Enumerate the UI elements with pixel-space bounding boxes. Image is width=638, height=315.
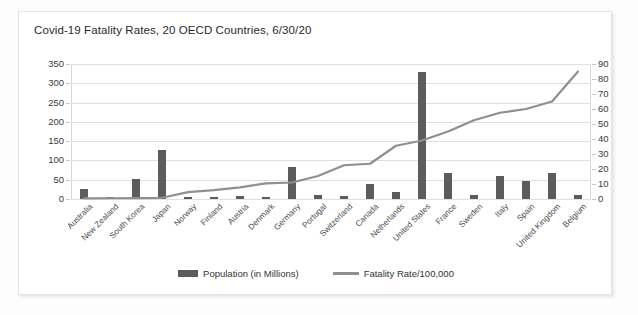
- right-axis-tick-label: 80: [598, 74, 609, 84]
- right-axis-tick-label: 0: [598, 194, 603, 204]
- right-axis-tick-mark: [592, 169, 596, 170]
- left-axis-tick-label: 350: [48, 59, 64, 69]
- left-axis-tick-mark: [66, 160, 70, 161]
- plot-area: 050100150200250300350 010203040506070809…: [71, 64, 591, 199]
- chart-card: Covid-19 Fatality Rates, 20 OECD Countri…: [18, 11, 612, 295]
- right-axis-tick-mark: [592, 109, 596, 110]
- left-axis-tick-label: 250: [48, 98, 64, 108]
- chart-legend: Population (in Millions) Fatality Rate/1…: [19, 268, 613, 279]
- left-axis-tick-mark: [66, 103, 70, 104]
- left-axis-tick-label: 300: [48, 78, 64, 88]
- left-axis-tick-mark: [66, 199, 70, 200]
- left-axis-tick-mark: [66, 141, 70, 142]
- left-axis-tick-label: 50: [53, 175, 64, 185]
- legend-label-population: Population (in Millions): [203, 268, 299, 279]
- right-axis-tick-mark: [592, 79, 596, 80]
- right-axis-tick-label: 90: [598, 59, 609, 69]
- right-axis-tick-mark: [592, 139, 596, 140]
- chart-title: Covid-19 Fatality Rates, 20 OECD Countri…: [34, 24, 311, 36]
- legend-item-population: Population (in Millions): [178, 268, 299, 279]
- right-axis-tick-mark: [592, 64, 596, 65]
- line-series-fatality-rate: [71, 64, 591, 199]
- legend-label-fatality-rate: Fatality Rate/100,000: [364, 268, 454, 279]
- right-axis-tick-mark: [592, 184, 596, 185]
- right-axis-tick-mark: [592, 124, 596, 125]
- right-axis-tick-label: 20: [598, 164, 609, 174]
- left-axis-tick-label: 100: [48, 155, 64, 165]
- right-axis-tick-label: 60: [598, 104, 609, 114]
- left-axis-tick-label: 0: [59, 194, 64, 204]
- screenshot-root: Covid-19 Fatality Rates, 20 OECD Countri…: [0, 0, 638, 315]
- right-axis-tick-mark: [592, 154, 596, 155]
- right-axis-tick-mark: [592, 199, 596, 200]
- left-axis-tick-label: 200: [48, 117, 64, 127]
- left-axis-tick-mark: [66, 180, 70, 181]
- right-axis-tick-label: 70: [598, 89, 609, 99]
- left-axis-tick-label: 150: [48, 136, 64, 146]
- left-axis-tick-mark: [66, 122, 70, 123]
- left-axis-tick-mark: [66, 83, 70, 84]
- right-axis-tick-label: 10: [598, 179, 609, 189]
- x-axis-category-labels: AustraliaNew ZealandSouth KoreaJapanNorw…: [71, 199, 591, 261]
- left-axis-tick-mark: [66, 64, 70, 65]
- line-swatch-icon: [333, 272, 359, 275]
- legend-item-fatality-rate: Fatality Rate/100,000: [333, 268, 454, 279]
- right-axis-tick-label: 50: [598, 119, 609, 129]
- right-axis-tick-mark: [592, 94, 596, 95]
- right-axis-tick-label: 30: [598, 149, 609, 159]
- right-axis-tick-label: 40: [598, 134, 609, 144]
- bar-swatch-icon: [178, 270, 198, 277]
